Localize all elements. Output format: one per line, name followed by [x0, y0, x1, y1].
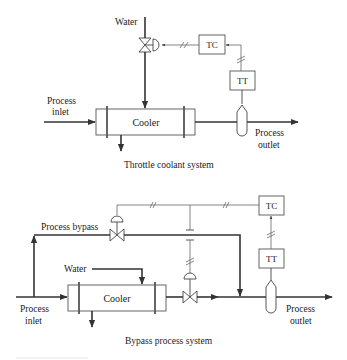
process-outlet-label: Process	[286, 304, 315, 314]
tc-label: TC	[206, 40, 218, 50]
process-outlet-label-2: outlet	[258, 140, 280, 150]
process-outlet-label-2: outlet	[290, 316, 312, 326]
process-outlet-label: Process	[255, 128, 284, 138]
diaphragm-actuator-icon	[111, 216, 123, 222]
process-inlet-label: Process	[20, 304, 49, 314]
cooler-label: Cooler	[103, 293, 131, 304]
caption-throttle: Throttle coolant system	[124, 160, 214, 170]
process-inlet-label-2: inlet	[52, 107, 69, 117]
water-label: Water	[115, 17, 138, 27]
water-supply-pipe	[92, 269, 142, 284]
water-label: Water	[64, 264, 87, 274]
diaphragm-actuator-icon	[184, 273, 196, 279]
bypass-process-system: TC Process bypass	[16, 196, 332, 358]
signal-line-tt-to-tc	[226, 45, 241, 71]
caption-bypass: Bypass process system	[125, 336, 213, 346]
process-bypass-label: Process bypass	[41, 222, 99, 232]
thermowell-icon	[266, 280, 276, 313]
tc-label: TC	[266, 201, 278, 211]
signal-bus-tc	[117, 205, 259, 215]
throttle-coolant-system: Water TC TT Process	[44, 17, 298, 170]
process-inlet-label: Process	[47, 96, 76, 106]
diagram-canvas: Water TC TT Process	[0, 0, 347, 360]
cooler-label: Cooler	[132, 117, 160, 128]
process-inlet-label-2: inlet	[25, 316, 42, 326]
tt-label: TT	[266, 254, 277, 264]
diaphragm-actuator-icon	[153, 39, 159, 51]
tt-label: TT	[237, 76, 248, 86]
thermowell-icon	[237, 105, 247, 136]
process-control-diagrams: Water TC TT Process	[0, 0, 347, 360]
